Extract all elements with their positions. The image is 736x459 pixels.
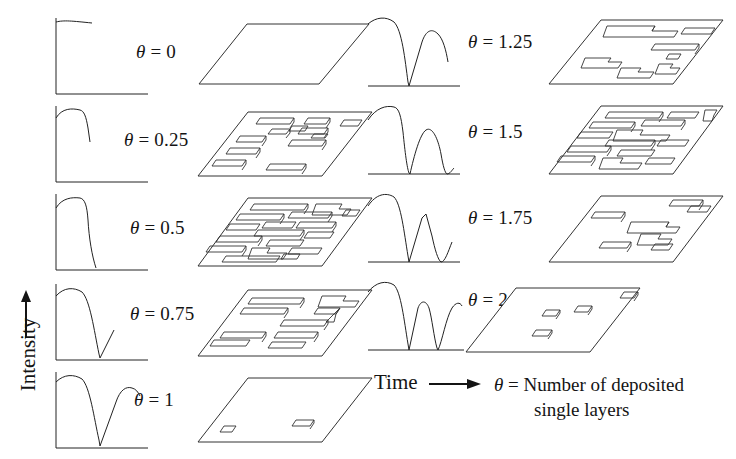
panel-theta-05: θ = 0.5	[0, 190, 368, 278]
theta-symbol: θ	[134, 389, 144, 410]
panel-theta-15: θ = 1.5	[368, 98, 736, 186]
surface-theta-125	[545, 14, 727, 94]
surface-theta-1	[196, 368, 374, 454]
rheed-curve-theta-1	[52, 368, 152, 454]
panel-theta-125: θ = 1.25	[368, 10, 736, 98]
surface-theta-175	[545, 188, 727, 272]
x-axis-time: Time	[374, 370, 483, 397]
legend-line-1: Number of deposited	[524, 374, 684, 395]
right-arrow-icon	[429, 372, 483, 397]
rheed-curve-theta-175	[368, 186, 472, 272]
rheed-growth-figure: θ = 0 θ = 0.25	[0, 0, 736, 459]
panel-theta-025: θ = 0.25	[0, 102, 368, 190]
x-axis-label: Time	[374, 370, 418, 394]
theta-symbol: θ	[130, 217, 140, 238]
theta-label-15: θ = 1.5	[468, 122, 523, 141]
panel-theta-175: θ = 1.75	[368, 186, 736, 274]
legend-theta-definition: θ = Number of deposited single layers	[494, 372, 684, 422]
theta-label-175: θ = 1.75	[468, 208, 532, 227]
theta-symbol: θ	[136, 41, 146, 62]
panel-theta-075: θ = 0.75	[0, 280, 368, 368]
rheed-curve-theta-15	[368, 98, 472, 184]
y-axis-label: Intensity	[16, 295, 41, 415]
theta-symbol: θ	[468, 121, 478, 142]
theta-value: = 1.75	[483, 207, 533, 228]
panel-theta-2: θ = 2	[368, 274, 736, 362]
theta-value: = 1	[149, 389, 175, 410]
theta-label-125: θ = 1.25	[468, 32, 532, 51]
theta-symbol: θ	[130, 303, 140, 324]
surface-theta-025	[196, 106, 374, 186]
rheed-curve-theta-125	[368, 10, 472, 96]
theta-value: = 0.75	[145, 303, 195, 324]
surface-theta-2	[454, 282, 654, 362]
theta-label-075: θ = 0.75	[130, 304, 194, 323]
panel-theta-0: θ = 0	[0, 14, 368, 102]
panel-theta-1: θ = 1	[0, 368, 368, 456]
theta-symbol: θ	[124, 129, 134, 150]
surface-theta-15	[545, 98, 727, 184]
legend-theta-symbol: θ	[494, 374, 503, 395]
legend-line-2: single layers	[534, 397, 684, 422]
theta-label-05: θ = 0.5	[130, 218, 185, 237]
surface-theta-05	[196, 190, 374, 276]
theta-label-0: θ = 0	[136, 42, 176, 61]
surface-theta-0	[197, 12, 372, 96]
theta-value: = 1.25	[483, 31, 533, 52]
theta-label-1: θ = 1	[134, 390, 174, 409]
surface-theta-075	[196, 282, 374, 366]
theta-symbol: θ	[468, 207, 478, 228]
y-axis-intensity: Intensity	[6, 286, 36, 456]
theta-value: = 0.5	[145, 217, 185, 238]
theta-value: = 1.5	[483, 121, 523, 142]
legend-equals: =	[508, 374, 519, 395]
theta-label-025: θ = 0.25	[124, 130, 188, 149]
theta-symbol: θ	[468, 31, 478, 52]
theta-value: = 0.25	[139, 129, 189, 150]
theta-value: = 0	[151, 41, 177, 62]
